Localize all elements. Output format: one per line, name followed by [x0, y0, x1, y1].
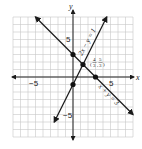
marked-point [93, 74, 98, 79]
svg-text:): ) [103, 62, 105, 67]
y-axis-label: y [68, 2, 73, 11]
svg-text:3: 3 [99, 63, 102, 68]
tick-label-y-neg5: −5 [63, 111, 73, 120]
tick-label-x-pos5: 5 [109, 79, 114, 88]
tick-label-y-pos5: 5 [66, 35, 71, 44]
tick-label-x-neg5: −5 [29, 79, 39, 88]
marked-point [80, 62, 85, 67]
marked-point [70, 82, 75, 87]
coordinate-graph: x y −5 5 5 −5 2x − y = 1 x + y = 3 ( 4 3… [0, 0, 142, 149]
x-axis-label: x [135, 73, 140, 82]
svg-text:5: 5 [99, 57, 102, 62]
svg-text:(: ( [90, 62, 92, 67]
marked-point [70, 52, 75, 57]
